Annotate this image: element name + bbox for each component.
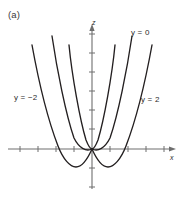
curve-label-y-two: y = 2	[141, 95, 160, 104]
curve-y-minus-1	[52, 36, 92, 150]
x-axis-label: x	[170, 154, 174, 161]
curve-y-one	[92, 36, 132, 150]
z-axis-label: z	[92, 19, 96, 26]
panel-label: (a)	[8, 9, 20, 20]
curve-label-y-minus-2: y = −2	[14, 93, 37, 102]
figure-panel: (a)	[0, 0, 183, 197]
curve-label-y-zero: y = 0	[131, 28, 150, 37]
x-axis-arrow-icon	[169, 146, 176, 151]
